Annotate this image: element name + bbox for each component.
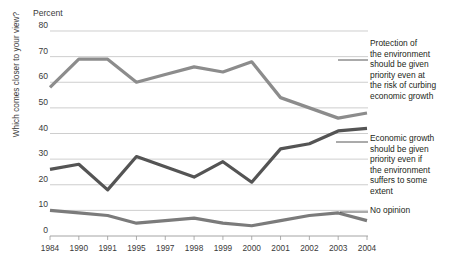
legend-leader-lines [336,60,368,212]
series-lines [50,59,367,226]
series-line-2 [50,210,367,225]
legend-line: suffers to some [370,175,468,186]
legend-line: No opinion [370,205,468,216]
legend-line: Protection of [370,38,468,49]
legend-line: should be given [370,144,468,155]
legend-line: the environment [370,165,468,176]
legend-line: priority even if [370,154,468,165]
legend-line: the risk of curbing [370,80,468,91]
legend-line: extent [370,186,468,197]
legend-line: should be given [370,59,468,70]
legend-label-economic-growth-priority: Economic growth should be given priority… [370,133,468,196]
legend-line: economic growth [370,91,468,102]
x-tick-marks [50,236,367,240]
legend-line: the environment [370,49,468,60]
series-line-0 [50,59,367,118]
legend-label-environment-priority: Protection of the environment should be … [370,38,468,101]
legend-label-no-opinion: No opinion [370,205,468,216]
legend-line: priority even at [370,70,468,81]
chart-figure: Percent Which comes closer to your view?… [0,0,468,266]
legend-line: Economic growth [370,133,468,144]
gridlines [50,31,368,236]
